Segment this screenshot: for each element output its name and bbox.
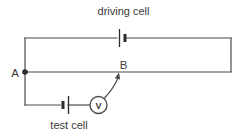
jockey-arrowhead-icon	[115, 73, 120, 80]
voltmeter-label: V	[95, 101, 101, 111]
circuit-diagram: V driving cell test cell A B	[0, 0, 243, 134]
driving-cell-label: driving cell	[98, 5, 150, 17]
circuit-svg: V driving cell test cell A B	[0, 0, 243, 134]
jockey-arrow-curve	[104, 79, 118, 99]
point-a-label: A	[11, 67, 19, 79]
test-cell-label: test cell	[50, 119, 87, 131]
junction-dot-a	[22, 69, 28, 75]
driving-cell-symbol	[120, 29, 126, 47]
point-b-label: B	[120, 59, 128, 71]
wires	[25, 38, 231, 105]
